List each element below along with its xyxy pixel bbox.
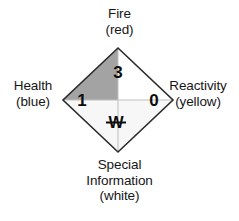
diamond-graphic [0,0,239,221]
water-reactive-w-icon: W [100,113,132,131]
reactivity-rating-value: 0 [144,92,164,109]
nfpa-fire-diamond-diagram: Fire (red) Health (blue) Reactivity (yel… [0,0,239,221]
fire-rating-value: 3 [108,64,128,81]
health-rating-value: 1 [72,92,92,109]
